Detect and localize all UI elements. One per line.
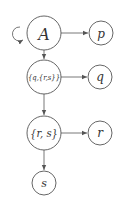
node-label: A [36,25,50,44]
edge-self-loop-A [12,27,23,41]
node-label: p [97,27,105,41]
node-rs: {r, s} [27,116,61,150]
node-p: p [89,21,113,45]
tree-diagram: A p {q,{r,s}} q {r, s} r s [0,0,123,206]
node-label: {q,{r,s}} [28,73,60,82]
node-label: q [96,70,104,84]
node-label: {r, s} [30,127,58,140]
node-label: s [41,177,47,190]
node-q-rs: {q,{r,s}} [27,60,61,94]
node-r: r [88,121,112,145]
node-A: A [27,16,61,50]
node-q: q [88,65,112,89]
node-s: s [32,171,56,195]
